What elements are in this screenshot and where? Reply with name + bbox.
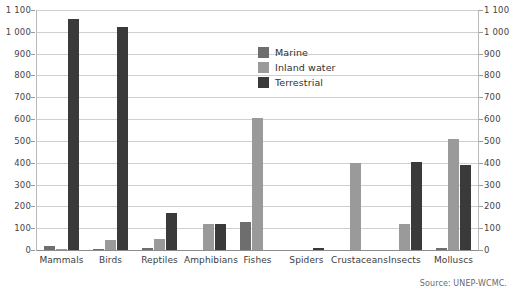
- y-tick-mark-right: [479, 10, 483, 11]
- bar-group: [436, 10, 471, 250]
- y-tick-label-right: 500: [484, 137, 501, 146]
- bar-group: [191, 10, 226, 250]
- bar[interactable]: [215, 224, 226, 250]
- y-tick-label-right: 800: [484, 71, 501, 80]
- bar[interactable]: [448, 139, 459, 250]
- y-tick-label-right: 200: [484, 202, 501, 211]
- x-axis-label: Fishes: [233, 255, 282, 265]
- x-axis-label: Insects: [380, 255, 429, 265]
- bar-group: [289, 10, 324, 250]
- bar[interactable]: [252, 118, 263, 250]
- legend-label: Marine: [275, 47, 308, 58]
- y-tick-label-left: 800: [14, 71, 31, 80]
- bar[interactable]: [117, 27, 128, 250]
- bar-group: [93, 10, 128, 250]
- bar[interactable]: [93, 249, 104, 250]
- y-tick-mark-left: [31, 185, 35, 186]
- bar[interactable]: [68, 19, 79, 250]
- x-axis-label: Crustaceans: [331, 255, 380, 265]
- y-tick-mark-left: [31, 206, 35, 207]
- y-tick-mark-right: [479, 54, 483, 55]
- y-tick-label-left: 100: [14, 224, 31, 233]
- y-tick-label-left: 600: [14, 115, 31, 124]
- y-tick-label-left: 900: [14, 50, 31, 59]
- bar[interactable]: [399, 224, 410, 250]
- legend-swatch-icon: [258, 62, 269, 73]
- y-tick-label-right: 0: [484, 246, 490, 255]
- bars-layer: [37, 10, 478, 250]
- bar[interactable]: [56, 249, 67, 250]
- y-tick-mark-right: [479, 163, 483, 164]
- y-tick-label-right: 1 000: [484, 28, 509, 37]
- y-tick-label-left: 300: [14, 181, 31, 190]
- legend-label: Inland water: [275, 62, 336, 73]
- y-tick-mark-right: [479, 97, 483, 98]
- bar[interactable]: [313, 248, 324, 250]
- y-tick-label-left: 500: [14, 137, 31, 146]
- y-tick-mark-right: [479, 141, 483, 142]
- bar-group: [44, 10, 79, 250]
- y-tick-mark-right: [479, 228, 483, 229]
- x-axis-label: Spiders: [282, 255, 331, 265]
- x-axis-label: Mammals: [37, 255, 86, 265]
- source-note: Source: UNEP-WCMC.: [420, 279, 507, 288]
- bar-group: [240, 10, 275, 250]
- legend-item-marine[interactable]: Marine: [258, 47, 336, 58]
- legend-swatch-icon: [258, 47, 269, 58]
- bar-group: [338, 10, 373, 250]
- y-tick-label-right: 900: [484, 50, 501, 59]
- y-tick-label-right: 1 100: [484, 6, 509, 15]
- bar[interactable]: [240, 222, 251, 250]
- bar-group: [387, 10, 422, 250]
- y-tick-mark-right: [479, 250, 483, 251]
- legend: Marine Inland water Terrestrial: [258, 47, 336, 88]
- legend-item-terrestrial[interactable]: Terrestrial: [258, 77, 336, 88]
- x-axis-label: Amphibians: [184, 255, 233, 265]
- y-tick-mark-left: [31, 54, 35, 55]
- bar[interactable]: [154, 239, 165, 250]
- y-tick-mark-left: [31, 10, 35, 11]
- y-tick-label-left: 200: [14, 202, 31, 211]
- y-tick-label-right: 300: [484, 181, 501, 190]
- y-tick-mark-right: [479, 119, 483, 120]
- bar-group: [142, 10, 177, 250]
- y-tick-label-left: 400: [14, 159, 31, 168]
- legend-label: Terrestrial: [275, 77, 323, 88]
- y-tick-mark-right: [479, 75, 483, 76]
- bar[interactable]: [44, 246, 55, 250]
- gridline: [37, 250, 478, 251]
- bar[interactable]: [166, 213, 177, 250]
- bar[interactable]: [350, 163, 361, 250]
- y-tick-mark-left: [31, 228, 35, 229]
- bar[interactable]: [105, 240, 116, 250]
- y-tick-label-right: 700: [484, 93, 501, 102]
- y-tick-label-right: 600: [484, 115, 501, 124]
- y-tick-label-right: 400: [484, 159, 501, 168]
- y-tick-mark-left: [31, 32, 35, 33]
- x-axis-label: Molluscs: [429, 255, 478, 265]
- legend-item-inland-water[interactable]: Inland water: [258, 62, 336, 73]
- y-tick-label-left: 1 100: [6, 6, 31, 15]
- y-tick-mark-right: [479, 206, 483, 207]
- y-tick-mark-left: [31, 250, 35, 251]
- bar-chart: 01002003004005006007008009001 0001 100 0…: [0, 0, 515, 296]
- y-tick-mark-right: [479, 185, 483, 186]
- x-axis-label: Birds: [86, 255, 135, 265]
- x-axis-label: Reptiles: [135, 255, 184, 265]
- bar[interactable]: [460, 165, 471, 250]
- y-tick-label-left: 700: [14, 93, 31, 102]
- y-tick-mark-left: [31, 75, 35, 76]
- y-tick-mark-left: [31, 163, 35, 164]
- y-tick-mark-left: [31, 141, 35, 142]
- y-tick-mark-left: [31, 119, 35, 120]
- y-tick-mark-left: [31, 97, 35, 98]
- legend-swatch-icon: [258, 77, 269, 88]
- bar[interactable]: [142, 248, 153, 250]
- bar[interactable]: [411, 162, 422, 250]
- bar[interactable]: [436, 248, 447, 250]
- y-tick-mark-right: [479, 32, 483, 33]
- y-tick-label-left: 1 000: [6, 28, 31, 37]
- y-tick-label-right: 100: [484, 224, 501, 233]
- bar[interactable]: [203, 224, 214, 250]
